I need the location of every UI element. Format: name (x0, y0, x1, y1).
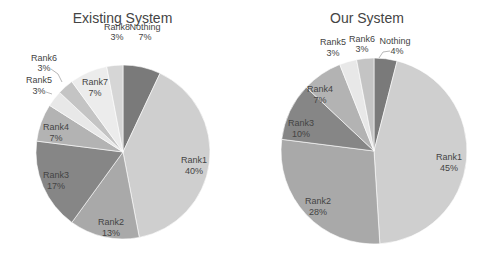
leader-line (379, 51, 390, 58)
slice-pct-rank1: 45% (440, 163, 458, 173)
slice-label-rank5: Rank5 (26, 75, 52, 85)
leader-line (51, 69, 62, 82)
slice-label-rank3: Rank3 (288, 118, 314, 128)
pie-chart: Rank8 3% Nothing 7% Rank6 3% Rank5 3% Ra… (0, 0, 245, 258)
slice-pct-rank5: 3% (326, 48, 339, 58)
slice-label-rank6: Rank6 (349, 34, 375, 44)
slice-pct-rank7: 7% (88, 88, 101, 98)
slice-label-rank1: Rank1 (436, 152, 462, 162)
slice-label-nothing: Nothing (379, 36, 410, 46)
existing-system-chart: Existing System Rank8 3% Nothing 7% Rank… (0, 0, 245, 258)
slice-pct-rank3: 10% (292, 129, 310, 139)
slice-pct-nothing: 4% (390, 46, 403, 56)
slice-label-rank3: Rank3 (43, 170, 69, 180)
slice-label-rank8: Rank8 (104, 22, 130, 32)
slice-pct-rank3: 17% (47, 181, 65, 191)
leader-line (46, 92, 52, 94)
slice-pct-nothing: 7% (138, 32, 151, 42)
slice-label-rank7: Rank7 (82, 77, 108, 87)
slice-pct-rank1: 40% (185, 166, 203, 176)
slice-label-rank2: Rank2 (98, 217, 124, 227)
slice-label-rank2: Rank2 (305, 196, 331, 206)
slice-pct-rank4: 7% (313, 95, 326, 105)
slice-pct-rank2: 28% (309, 207, 327, 217)
slice-pct-rank6: 3% (37, 63, 50, 73)
slice-pct-rank2: 13% (102, 228, 120, 238)
pie-chart: Rank5 3% Rank6 3% Nothing 4% Rank4 7% Ra… (245, 0, 489, 258)
slice-label-rank5: Rank5 (320, 37, 346, 47)
our-system-chart: Our System Rank5 3% Rank6 3% Nothing 4% … (245, 0, 489, 258)
slice-label-rank1: Rank1 (181, 155, 207, 165)
slice-pct-rank4: 7% (49, 133, 62, 143)
slice-label-rank4: Rank4 (43, 122, 69, 132)
slice-pct-rank5: 3% (32, 86, 45, 96)
slice-label-rank4: Rank4 (307, 84, 333, 94)
slice-pct-rank8: 3% (110, 32, 123, 42)
slice-label-nothing: Nothing (129, 22, 160, 32)
slice-label-rank6: Rank6 (31, 53, 57, 63)
slice-pct-rank6: 3% (355, 44, 368, 54)
pie-slice-rank2 (281, 139, 380, 244)
